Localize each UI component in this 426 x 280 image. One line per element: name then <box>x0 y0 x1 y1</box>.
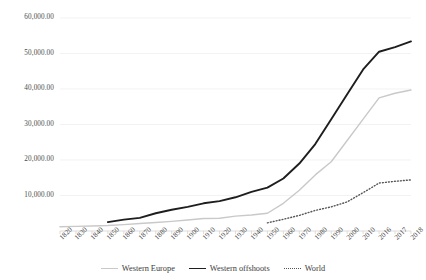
series-line-western-europe <box>60 90 411 227</box>
legend-label-world: World <box>305 264 326 273</box>
series-line-western-offshoots <box>108 41 411 222</box>
legend-item-western-europe[interactable]: Western Europe <box>101 264 175 273</box>
legend-item-world[interactable]: World <box>284 264 326 273</box>
y-axis-tick-label: 60,000.00 <box>8 13 54 21</box>
legend-line-icon-world <box>284 268 301 269</box>
y-axis-tick-label: 20,000.00 <box>8 155 54 163</box>
series-line-world <box>267 180 411 223</box>
legend-line-icon-western-offshoots <box>189 268 206 269</box>
legend-label-western-europe: Western Europe <box>122 264 175 273</box>
gridlines <box>60 18 411 196</box>
chart-legend: Western Europe Western offshoots World <box>0 260 426 276</box>
data-series-group <box>60 41 411 226</box>
y-axis-tick-label: 10,000.00 <box>8 191 54 199</box>
y-axis-tick-label: 40,000.00 <box>8 84 54 92</box>
y-axis-tick-label: 30,000.00 <box>8 120 54 128</box>
y-axis-tick-label: 50,000.00 <box>8 49 54 57</box>
legend-line-icon-western-europe <box>101 268 118 269</box>
legend-item-western-offshoots[interactable]: Western offshoots <box>189 264 270 273</box>
legend-label-western-offshoots: Western offshoots <box>210 264 270 273</box>
line-chart: 10,000.0020,000.0030,000.0040,000.0050,0… <box>0 0 426 280</box>
